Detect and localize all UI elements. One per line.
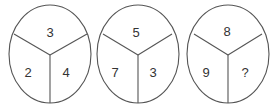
circle-1-divider-right	[50, 34, 87, 55]
circle-1-top-number: 3	[46, 25, 53, 40]
circle-1-left-number: 2	[24, 65, 31, 80]
circle-3-divider-right	[228, 34, 262, 55]
circle-2-divider-right	[138, 34, 172, 55]
circle-2-left-number: 7	[111, 65, 118, 80]
circle-2: 5 7 3	[97, 5, 179, 103]
circle-3-unknown-number: ?	[241, 65, 248, 80]
circle-1-right-number: 4	[62, 65, 69, 80]
circle-3: 8 9 ?	[187, 5, 269, 103]
puzzle-figure: 3 2 4 5 7 3 8 9 ?	[0, 0, 276, 110]
number-circle-puzzle: 3 2 4 5 7 3 8 9 ?	[0, 0, 276, 110]
circle-2-top-number: 5	[132, 25, 139, 40]
circle-1-divider-left	[14, 34, 50, 55]
circle-1: 3 2 4	[9, 5, 91, 103]
circle-3-top-number: 8	[223, 24, 230, 39]
circle-3-left-number: 9	[202, 65, 209, 80]
circle-2-right-number: 3	[149, 65, 156, 80]
